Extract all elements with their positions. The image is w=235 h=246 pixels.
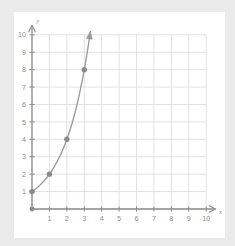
x-axis-tick-label: 9 (187, 214, 191, 223)
x-axis-tick-label: 3 (82, 214, 86, 223)
y-axis-tick-label: 5 (22, 118, 26, 127)
x-axis-label: x (218, 208, 222, 215)
x-axis-tick-label: 1 (47, 214, 51, 223)
y-axis-tick-label: 4 (22, 135, 26, 144)
y-axis-tick-label: 2 (22, 170, 26, 179)
y-axis-tick-label: 9 (22, 48, 26, 57)
x-axis-tick-label: 5 (117, 214, 121, 223)
coordinate-plane-chart: 12345678910 12345678910 xy (0, 0, 235, 246)
x-axis-tick-label: 7 (152, 214, 156, 223)
x-axis-tick-labels: 12345678910 (47, 214, 210, 223)
y-axis-label: y (36, 17, 40, 24)
axis-name-labels: xy (36, 17, 223, 215)
y-axis-tick-label: 10 (18, 30, 26, 39)
y-axis-tick-label: 6 (22, 100, 26, 109)
x-axis-tick-label: 4 (100, 214, 104, 223)
y-axis-tick-label: 8 (22, 65, 26, 74)
y-axis-tick-label: 3 (22, 152, 26, 161)
curve-path (32, 31, 90, 191)
data-point-marker (64, 137, 69, 142)
x-axis-tick-label: 10 (202, 214, 210, 223)
data-point-marker (82, 67, 87, 72)
y-axis-tick-label: 1 (22, 187, 26, 196)
axes (29, 25, 216, 212)
y-axis-tick-labels: 12345678910 (18, 30, 26, 196)
y-axis-tick-label: 7 (22, 83, 26, 92)
data-point-marker (47, 171, 52, 176)
curve-end-arrow-icon (86, 31, 92, 39)
x-axis-tick-label: 8 (169, 214, 173, 223)
tick-marks (29, 35, 206, 212)
x-axis-tick-label: 6 (135, 214, 139, 223)
figure-root: 12345678910 12345678910 xy (0, 0, 235, 246)
data-point-marker (29, 189, 34, 194)
x-axis-tick-label: 2 (65, 214, 69, 223)
exponential-curve (32, 31, 92, 191)
origin-marker (30, 207, 35, 212)
